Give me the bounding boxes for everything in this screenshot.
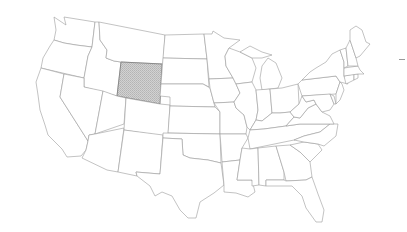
state-south-dakota[interactable] — [161, 58, 209, 87]
legend-dash — [399, 59, 405, 60]
state-new-mexico[interactable] — [118, 130, 163, 176]
state-massachusetts[interactable] — [344, 66, 364, 76]
state-montana[interactable] — [99, 22, 165, 64]
state-kansas[interactable] — [168, 106, 220, 134]
state-florida[interactable] — [266, 177, 324, 222]
us-map — [0, 0, 407, 232]
state-north-dakota[interactable] — [163, 34, 207, 59]
state-nebraska[interactable] — [160, 84, 215, 107]
state-rhode-island[interactable] — [354, 74, 358, 80]
